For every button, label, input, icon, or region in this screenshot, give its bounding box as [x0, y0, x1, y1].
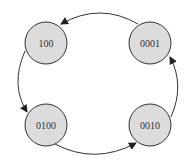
state-label: 0010 — [140, 120, 160, 131]
arrow-0100-to-0010 — [55, 143, 136, 154]
state-label: 100 — [39, 38, 54, 49]
arrow-0010-to-0001 — [170, 57, 178, 117]
state-label: 0100 — [36, 120, 56, 131]
state-0100: 0100 — [25, 104, 67, 146]
state-diagram: 100 0001 0100 0010 — [0, 0, 190, 162]
state-100: 100 — [25, 22, 67, 64]
arrow-100-to-0100 — [18, 51, 27, 112]
state-0010: 0010 — [129, 104, 171, 146]
state-0001: 0001 — [129, 22, 171, 64]
state-label: 0001 — [140, 38, 160, 49]
arrow-0001-to-100 — [61, 13, 138, 24]
